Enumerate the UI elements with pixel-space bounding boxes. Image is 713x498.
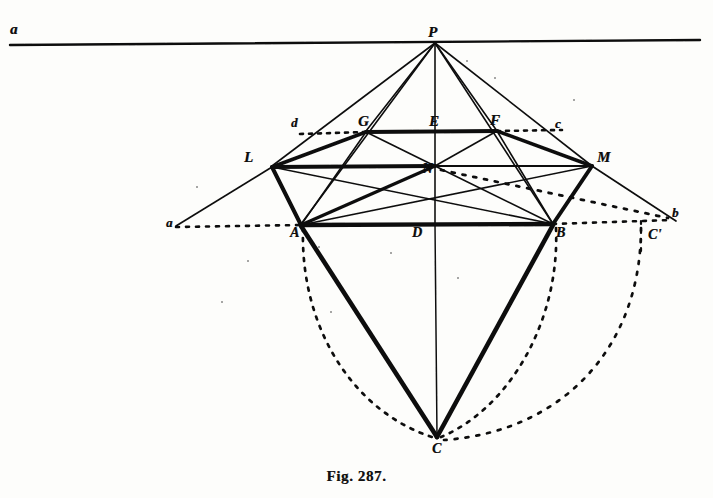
figure-287: a P d G E F c L N M a A D B C' b C Fig. … bbox=[0, 0, 713, 498]
paper-speck bbox=[573, 99, 575, 101]
label-vertex-G: G bbox=[358, 114, 369, 129]
label-upper-left-dot-d: d bbox=[291, 116, 298, 129]
dotted-extension-dG bbox=[300, 132, 366, 134]
lower-triangle-ACB bbox=[301, 225, 553, 437]
paper-speck bbox=[390, 252, 392, 254]
horizon-line bbox=[10, 40, 700, 45]
dotted-extension-Bb bbox=[553, 220, 672, 224]
label-base-left-dot-a: a bbox=[166, 216, 173, 229]
edge-F-N bbox=[435, 131, 497, 166]
label-vertex-N: N bbox=[422, 161, 433, 176]
edge-A-C bbox=[301, 226, 437, 437]
label-vertex-A: A bbox=[290, 226, 300, 240]
paper-speck bbox=[221, 301, 223, 303]
label-vertex-C-prime: C' bbox=[648, 228, 662, 242]
ray-L-a bbox=[176, 167, 272, 226]
label-vertex-M: M bbox=[597, 150, 611, 165]
paper-speck bbox=[318, 246, 320, 248]
construction-arc-Cprime-to-C bbox=[444, 228, 641, 440]
dotted-extension-aA bbox=[176, 225, 301, 227]
ray-M-b bbox=[592, 166, 676, 221]
label-vertex-D: D bbox=[412, 226, 422, 240]
label-apex-P: P bbox=[428, 25, 437, 40]
paper-speck bbox=[494, 77, 496, 79]
edge-L-G bbox=[272, 132, 366, 167]
ray-P-M bbox=[435, 43, 592, 166]
edge-L-A bbox=[272, 167, 301, 225]
paper-speck bbox=[330, 311, 332, 313]
dotted-extension-Fc bbox=[497, 130, 562, 131]
label-vertex-C: C bbox=[432, 442, 442, 456]
ray-P-L bbox=[272, 43, 435, 166]
base-edge-AB bbox=[301, 224, 553, 225]
upper-edge-GF bbox=[366, 131, 497, 132]
label-vertex-L: L bbox=[244, 150, 253, 165]
label-horizon-left: a bbox=[10, 22, 18, 37]
perspective-diagram bbox=[0, 0, 713, 498]
edge-L-N bbox=[272, 166, 435, 167]
construction-arc-from-B bbox=[441, 228, 556, 437]
label-vertex-B: B bbox=[556, 226, 566, 240]
paper-speck bbox=[196, 186, 198, 188]
label-upper-right-dot-c: c bbox=[555, 117, 561, 130]
central-vertical bbox=[435, 131, 437, 436]
figure-caption: Fig. 287. bbox=[0, 468, 713, 485]
edge-B-C bbox=[437, 225, 553, 437]
label-vertex-E: E bbox=[429, 114, 439, 129]
paper-speck bbox=[466, 60, 468, 62]
paper-speck bbox=[247, 260, 249, 262]
label-base-right-dot-b: b bbox=[672, 206, 679, 219]
label-vertex-F: F bbox=[490, 113, 500, 128]
paper-speck bbox=[457, 277, 459, 279]
